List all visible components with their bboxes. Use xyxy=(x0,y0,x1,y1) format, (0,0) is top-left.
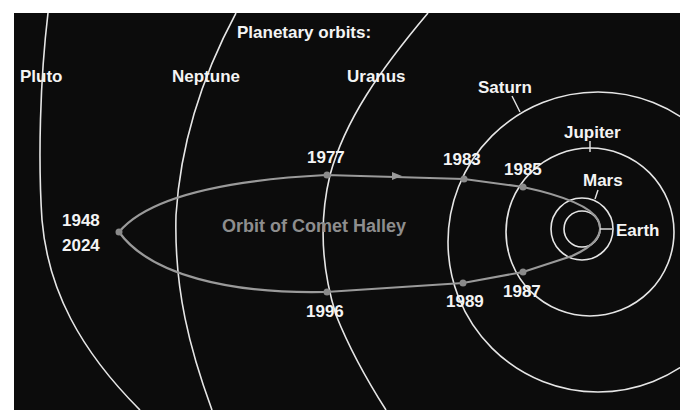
label-neptune: Neptune xyxy=(172,67,240,86)
direction-arrow-icon xyxy=(392,172,402,180)
label-earth: Earth xyxy=(616,221,659,240)
diagram-panel: Planetary orbits: Pluto Neptune Uranus S… xyxy=(14,13,680,410)
position-dot-1983 xyxy=(461,176,468,183)
label-year-1996: 1996 xyxy=(306,302,344,321)
diagram-title: Planetary orbits: xyxy=(237,23,371,42)
label-year-1977: 1977 xyxy=(307,148,345,167)
label-year-2024: 2024 xyxy=(62,236,100,255)
position-dot-1987 xyxy=(520,269,527,276)
label-year-1989: 1989 xyxy=(446,292,484,311)
mars-leader xyxy=(595,190,598,199)
label-year-1987: 1987 xyxy=(503,282,541,301)
label-saturn: Saturn xyxy=(478,78,532,97)
aphelion-dot xyxy=(116,229,123,236)
label-uranus: Uranus xyxy=(347,67,406,86)
label-year-1985: 1985 xyxy=(504,160,542,179)
position-dot-1985 xyxy=(520,184,527,191)
label-pluto: Pluto xyxy=(20,67,63,86)
position-dot-1996 xyxy=(324,289,331,296)
label-jupiter: Jupiter xyxy=(564,123,621,142)
orbit-diagram: Planetary orbits: Pluto Neptune Uranus S… xyxy=(14,13,680,410)
position-dot-1989 xyxy=(460,280,467,287)
position-dot-1977 xyxy=(324,172,331,179)
label-comet-orbit: Orbit of Comet Halley xyxy=(222,216,406,236)
label-year-1983: 1983 xyxy=(443,150,481,169)
label-mars: Mars xyxy=(583,171,623,190)
saturn-leader xyxy=(512,96,520,112)
label-year-1948: 1948 xyxy=(62,211,100,230)
